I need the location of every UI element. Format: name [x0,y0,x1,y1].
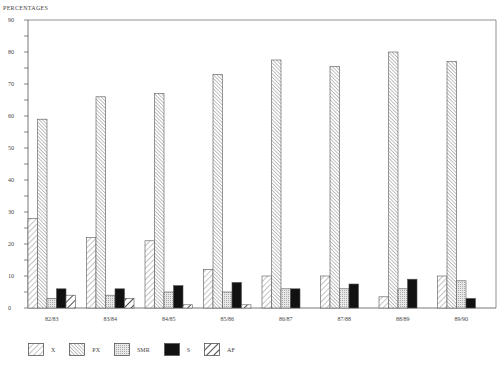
x-tick-label: 88/89 [396,316,410,322]
bar-px [155,94,165,308]
y-tick-label: 20 [8,241,14,247]
legend-swatch-icon [114,343,130,356]
bar-s [57,289,67,308]
x-tick-label: 89/90 [454,316,468,322]
bar-x [379,297,389,308]
bars [28,52,476,308]
bar-s [349,284,359,308]
axes: 0102030405060708090 [8,17,496,311]
y-tick-label: 30 [8,209,14,215]
legend-item-smr: SMR [114,343,150,356]
legend-swatch-icon [204,343,220,356]
bar-smr [106,295,116,308]
y-tick-label: 90 [8,17,14,23]
x-tick-label: 84/85 [162,316,176,322]
legend-label: AF [227,347,235,353]
bar-px [330,66,340,308]
bar-s [408,279,418,308]
bar-s [232,282,242,308]
bar-x [438,276,448,308]
bar-s [466,298,476,308]
bar-chart: 0102030405060708090 82/8383/8484/8585/86… [0,0,502,340]
y-tick-label: 50 [8,145,14,151]
legend-label: S [187,347,190,353]
bar-af [66,295,76,308]
y-tick-label: 10 [8,273,14,279]
legend-swatch-icon [164,343,180,356]
bar-smr [457,281,467,308]
bar-px [389,52,399,308]
legend-item-af: AF [204,343,235,356]
bar-px [272,60,282,308]
bar-s [174,286,184,308]
bar-px [38,119,48,308]
x-axis-labels: 82/8383/8484/8585/8686/8787/8888/8989/90 [45,316,468,322]
bar-x [321,276,331,308]
bar-smr [47,298,57,308]
bar-smr [164,292,174,308]
y-tick-label: 40 [8,177,14,183]
legend-item-px: PX [69,343,100,356]
bar-x [204,270,214,308]
legend-item-s: S [164,343,190,356]
legend-label: PX [92,347,100,353]
bar-x [262,276,272,308]
legend-swatch-icon [28,343,44,356]
y-tick-label: 60 [8,113,14,119]
bar-smr [398,289,408,308]
x-tick-label: 85/86 [220,316,234,322]
legend: XPXSMRSAF [28,343,249,356]
bar-px [213,74,223,308]
legend-label: SMR [137,347,150,353]
y-tick-label: 80 [8,49,14,55]
y-tick-label: 0 [8,305,11,311]
bar-s [115,289,125,308]
x-tick-label: 87/88 [337,316,351,322]
x-tick-label: 86/87 [279,316,293,322]
bar-px [96,97,106,308]
bar-af [242,305,252,308]
bar-x [28,218,38,308]
legend-item-x: X [28,343,55,356]
bar-px [447,62,457,308]
bar-x [87,238,97,308]
bar-smr [281,289,291,308]
y-tick-label: 70 [8,81,14,87]
bar-af [183,305,193,308]
bar-smr [223,292,233,308]
bar-s [291,289,301,308]
x-tick-label: 82/83 [45,316,59,322]
legend-label: X [51,347,55,353]
bar-smr [340,289,350,308]
bar-af [125,298,135,308]
legend-swatch-icon [69,343,85,356]
bar-x [145,241,155,308]
x-tick-label: 83/84 [103,316,117,322]
